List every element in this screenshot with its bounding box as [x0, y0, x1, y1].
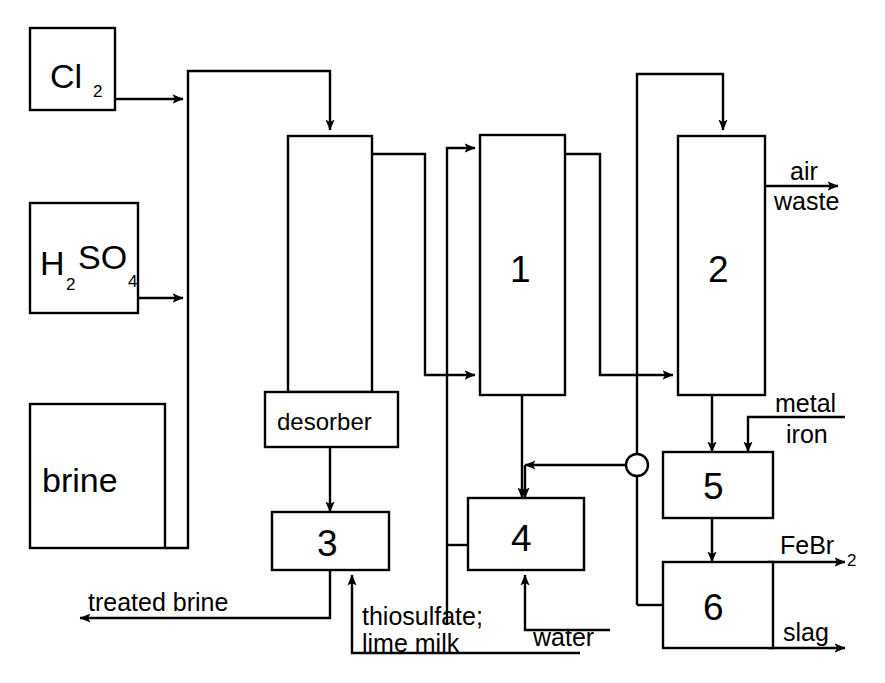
flow-diagram-canvas: Cl 2 H 2 SO 4 brine desorber 1 2 3 4 5 6…: [0, 0, 885, 683]
febr2-subscript: 2: [847, 551, 856, 570]
sulfuric-acid-label: H: [40, 244, 65, 282]
unit-3-label: 3: [317, 523, 338, 564]
stream-junction-node: [626, 454, 648, 476]
unit-6-label: 6: [703, 587, 724, 628]
thiosulfate-label: thiosulfate;: [362, 602, 483, 630]
unit-5-label: 5: [703, 466, 724, 507]
sulfuric-acid-subscript-4: 4: [128, 272, 137, 291]
unit-4-label: 4: [511, 518, 532, 559]
unit-2-label: 2: [708, 249, 729, 290]
absorber-column-box: [288, 136, 372, 392]
process-flow-diagram: Cl 2 H 2 SO 4 brine desorber 1 2 3 4 5 6…: [0, 0, 885, 683]
waste-stream-label: waste: [773, 187, 839, 215]
unit-1-label: 1: [510, 249, 531, 290]
desorber-label: desorber: [277, 408, 372, 435]
line-absorber-to-unit1-lower: [372, 154, 475, 375]
chlorine-subscript: 2: [93, 82, 102, 101]
line-unit1-to-unit2: [565, 154, 673, 375]
chlorine-label: Cl: [50, 57, 82, 95]
metal-stream-label: metal: [775, 389, 836, 417]
febr2-stream-label: FeBr: [780, 531, 834, 559]
sulfuric-acid-subscript-2: 2: [66, 275, 75, 294]
air-stream-label: air: [790, 157, 818, 185]
brine-label: brine: [42, 461, 118, 499]
iron-stream-label: iron: [786, 420, 828, 448]
sulfuric-acid-label-so: SO: [78, 238, 127, 276]
lime-milk-label: lime milk: [362, 629, 460, 657]
treated-brine-label: treated brine: [88, 588, 228, 616]
slag-stream-label: slag: [783, 618, 829, 646]
line-water-to-unit4: [525, 575, 610, 630]
water-label: water: [532, 623, 594, 651]
